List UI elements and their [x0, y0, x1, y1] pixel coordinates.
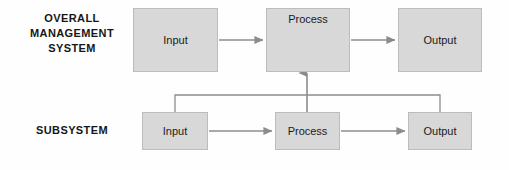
node-subsystem-input-label: Input [143, 125, 207, 137]
row-label-subsystem: SUBSYSTEM [18, 123, 126, 138]
node-overall-input[interactable]: Input [133, 8, 218, 72]
node-overall-output[interactable]: Output [398, 8, 482, 72]
node-subsystem-process[interactable]: Process [275, 112, 340, 150]
node-overall-output-label: Output [399, 34, 481, 46]
node-subsystem-process-label: Process [276, 125, 339, 137]
node-subsystem-output[interactable]: Output [408, 112, 472, 150]
node-overall-process-label: Process [267, 13, 349, 25]
row-label-overall-management-system: OVERALL MANAGEMENT SYSTEM [18, 11, 126, 56]
node-overall-process[interactable]: Process [266, 8, 350, 72]
node-subsystem-output-label: Output [409, 125, 471, 137]
system-diagram: OVERALL MANAGEMENT SYSTEM SUBSYSTEM Inpu… [0, 0, 509, 170]
node-subsystem-input[interactable]: Input [142, 112, 208, 150]
node-overall-input-label: Input [134, 34, 217, 46]
